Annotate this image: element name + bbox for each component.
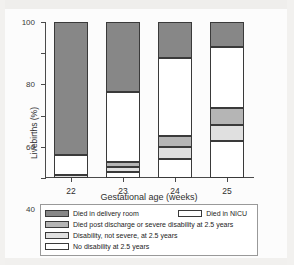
y-tick-label: 60 — [26, 142, 35, 151]
legend-entry[interactable]: Died in NICU — [178, 210, 253, 217]
legend-swatch — [178, 210, 202, 217]
bar-segment[interactable] — [211, 125, 243, 141]
bar-segment[interactable] — [55, 22, 87, 155]
bar-segment[interactable] — [159, 136, 191, 147]
plot-area: 100806040200 22232425 — [45, 22, 253, 178]
legend-swatch — [45, 221, 69, 228]
bar-column[interactable] — [54, 22, 88, 178]
x-tick-mark: 22 — [71, 178, 72, 182]
bar-segment[interactable] — [159, 58, 191, 136]
page-edge-bottom — [0, 258, 294, 265]
page-edge-left — [0, 0, 5, 265]
y-axis-line — [45, 22, 46, 179]
legend-entry[interactable]: No disability at 2.5 years — [45, 243, 149, 250]
bar-segment[interactable] — [159, 147, 191, 159]
bar-segment[interactable] — [159, 159, 191, 178]
legend-label: No disability at 2.5 years — [73, 243, 149, 250]
x-tick-mark: 24 — [175, 178, 176, 182]
legend-row: Disability, not severe, at 2.5 years — [45, 230, 253, 241]
x-axis-title: Gestational age (weeks) — [45, 192, 253, 202]
bar-segment[interactable] — [107, 22, 139, 92]
bar-segment[interactable] — [211, 108, 243, 125]
bar-segment[interactable] — [107, 167, 139, 172]
bar-segment[interactable] — [55, 175, 87, 178]
legend-label: Died in delivery room — [73, 210, 139, 217]
y-tick-mark: 80 — [41, 53, 45, 54]
y-tick-label: 40 — [26, 205, 35, 214]
x-tick-mark: 23 — [123, 178, 124, 182]
chart-figure: Livebirths (%) 100806040200 22232425 Ges… — [0, 0, 294, 265]
page-edge-right — [287, 0, 294, 265]
y-tick-mark: 60 — [41, 84, 45, 85]
bar-segment[interactable] — [211, 47, 243, 108]
legend-row: Died post discharge or severe disability… — [45, 219, 253, 230]
x-tick-mark: 25 — [227, 178, 228, 182]
legend-label: Disability, not severe, at 2.5 years — [73, 232, 178, 239]
legend-entry[interactable]: Died in delivery room — [45, 210, 139, 217]
legend-entry[interactable]: Disability, not severe, at 2.5 years — [45, 232, 178, 239]
bar-segment[interactable] — [211, 22, 243, 47]
bar-segment[interactable] — [211, 141, 243, 178]
legend-swatch — [45, 232, 69, 239]
bar-column[interactable] — [106, 22, 140, 178]
y-tick-label: 80 — [26, 80, 35, 89]
legend-label: Died in NICU — [206, 210, 247, 217]
y-tick-mark: 0 — [41, 178, 45, 179]
y-tick-mark: 40 — [41, 116, 45, 117]
y-tick-mark: 100 — [41, 22, 45, 23]
legend-entry[interactable]: Died post discharge or severe disability… — [45, 221, 233, 228]
legend-row: Died in delivery roomDied in NICU — [45, 208, 253, 219]
bar-segment[interactable] — [159, 22, 191, 58]
page-edge-top — [0, 0, 294, 9]
y-tick-label: 100 — [22, 18, 35, 27]
legend-swatch — [45, 243, 69, 250]
legend-label: Died post discharge or severe disability… — [73, 221, 233, 228]
bar-segment[interactable] — [55, 155, 87, 175]
chart-legend: Died in delivery roomDied in NICUDied po… — [40, 204, 258, 256]
bar-segment[interactable] — [107, 92, 139, 162]
bar-segment[interactable] — [107, 162, 139, 167]
legend-swatch — [45, 210, 69, 217]
bar-segment[interactable] — [107, 172, 139, 178]
bar-column[interactable] — [158, 22, 192, 178]
y-tick-mark: 20 — [41, 147, 45, 148]
bar-column[interactable] — [210, 22, 244, 178]
legend-row: No disability at 2.5 years — [45, 241, 253, 252]
